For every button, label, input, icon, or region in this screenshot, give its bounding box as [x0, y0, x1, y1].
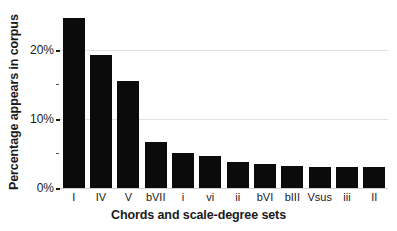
bar: [90, 55, 112, 188]
bar: [117, 81, 139, 188]
y-axis-minor-tick-mark: [56, 84, 59, 85]
x-tick-label: V: [115, 190, 142, 204]
y-tick-label: 10%: [0, 113, 54, 125]
y-axis-tick-labels: 0% 10% 20%: [0, 0, 54, 231]
x-tick-label: Vsus: [306, 190, 333, 204]
x-tick-label: bIII: [279, 190, 306, 204]
bar: [281, 166, 303, 188]
x-tick-label: ii: [224, 190, 251, 204]
x-tick-label: II: [361, 190, 388, 204]
bar: [363, 167, 385, 188]
x-tick-label: i: [169, 190, 196, 204]
x-tick-label: I: [60, 190, 87, 204]
gridline: [60, 50, 388, 51]
y-tick-label: 20%: [0, 44, 54, 56]
bar: [309, 167, 331, 188]
bar: [254, 164, 276, 188]
x-axis-title: Chords and scale-degree sets: [0, 208, 397, 222]
x-tick-label: bVI: [251, 190, 278, 204]
x-axis-baseline: [60, 188, 388, 189]
bar: [336, 167, 358, 188]
bar: [172, 153, 194, 188]
bar: [227, 162, 249, 188]
x-tick-label: IV: [87, 190, 114, 204]
x-axis-tick-labels: IIVVbVIIiviiibVIbIIIVsusiiiII: [60, 190, 388, 206]
plot-area: [60, 8, 388, 188]
y-axis-minor-tick-mark: [56, 153, 59, 154]
bar: [63, 18, 85, 188]
x-tick-label: iii: [333, 190, 360, 204]
y-tick-label: 0%: [0, 182, 54, 194]
bar: [199, 156, 221, 188]
bar: [145, 142, 167, 188]
x-tick-label: vi: [197, 190, 224, 204]
x-tick-label: bVII: [142, 190, 169, 204]
bar-chart-figure: Percentage appears in corpus 0% 10% 20% …: [0, 0, 397, 231]
